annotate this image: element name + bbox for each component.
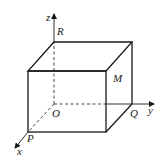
- z-axis-label: z: [45, 11, 51, 23]
- box-diagram: z R M O Q y P x: [0, 0, 166, 165]
- point-r-label: R: [56, 25, 64, 37]
- diagram-canvas: z R M O Q y P x: [0, 0, 166, 165]
- point-p-label: P: [26, 132, 34, 144]
- origin-label: O: [52, 107, 60, 119]
- point-m-label: M: [112, 72, 123, 84]
- x-axis-hidden: [28, 104, 54, 132]
- y-axis-label: y: [147, 104, 153, 116]
- front-face: [28, 71, 106, 132]
- bottom-right-edge: [106, 104, 132, 132]
- x-axis-label: x: [16, 145, 22, 157]
- top-face: [28, 42, 132, 71]
- point-q-label: Q: [130, 107, 138, 119]
